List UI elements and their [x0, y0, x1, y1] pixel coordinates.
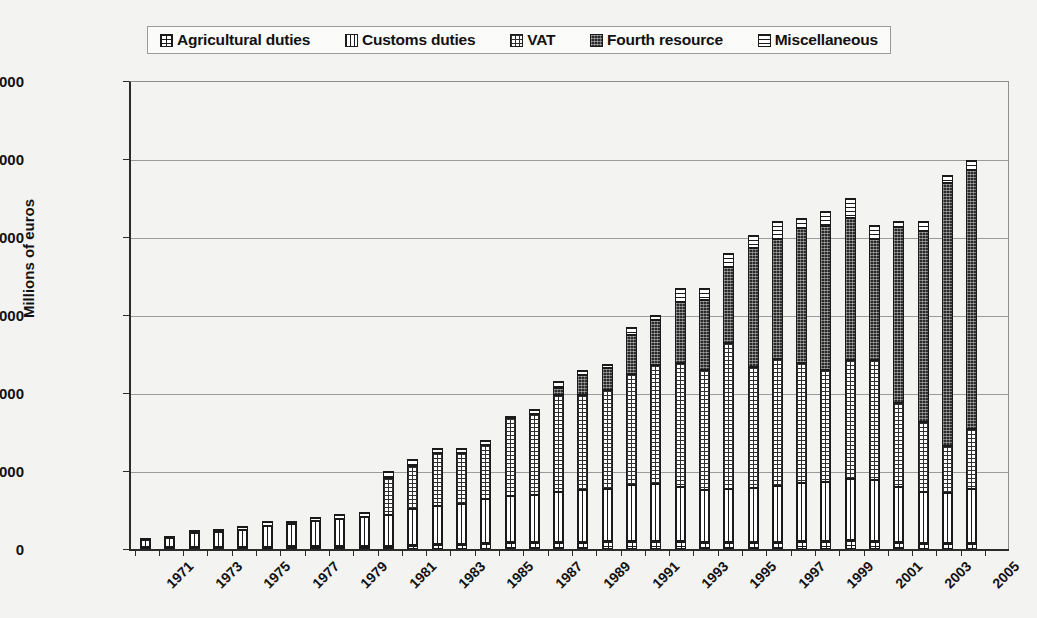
bar-segment-miscellaneous — [772, 221, 783, 238]
legend-item-label: Customs duties — [362, 32, 475, 48]
legend-item-4: Miscellaneous — [758, 32, 878, 48]
y-axis-tick-label: 100,000 — [0, 151, 24, 168]
bar-segment-customs-duties — [262, 526, 273, 547]
bar-segment-customs-duties — [310, 521, 321, 546]
bar-segment-customs-duties — [553, 492, 564, 542]
bar-segment-customs-duties — [650, 484, 661, 541]
x-axis-tick-mark — [645, 549, 646, 556]
bar-segment-miscellaneous — [407, 459, 418, 466]
bar-1993 — [675, 288, 686, 549]
bar-segment-fourth-resource — [699, 300, 710, 370]
bar-segment-customs-duties — [869, 480, 880, 541]
bar-1990 — [602, 364, 613, 549]
bar-segment-vat — [577, 395, 588, 491]
chart-legend: Agricultural dutiesCustoms dutiesVATFour… — [147, 26, 891, 54]
x-axis-tick-mark — [864, 549, 865, 556]
bar-segment-customs-duties — [942, 493, 953, 543]
bar-2003 — [918, 221, 929, 549]
bar-segment-agricultural-duties — [869, 541, 880, 549]
x-axis-tick-mark — [936, 549, 937, 556]
bar-segment-vat — [942, 446, 953, 493]
bar-segment-customs-duties — [918, 492, 929, 543]
x-axis-tick-mark — [912, 549, 913, 556]
x-axis-tick-mark — [523, 549, 524, 556]
bar-1999 — [820, 211, 831, 549]
x-axis-tick-mark — [596, 549, 597, 556]
bar-segment-customs-duties — [845, 479, 856, 541]
horizontal-lines-swatch-icon — [758, 34, 771, 47]
bar-segment-miscellaneous — [942, 175, 953, 184]
x-axis-label-1987: 1987 — [552, 558, 585, 591]
x-axis-label-1981: 1981 — [406, 558, 439, 591]
legend-item-0: Agricultural duties — [160, 32, 310, 48]
y-axis-tick-label: 120,000 — [0, 73, 24, 90]
bar-segment-agricultural-duties — [602, 541, 613, 549]
bar-segment-vat — [529, 414, 540, 495]
bar-segment-vat — [675, 363, 686, 488]
x-axis-tick-mark — [207, 549, 208, 556]
x-axis-tick-mark — [256, 549, 257, 556]
bar-segment-vat — [626, 374, 637, 485]
bar-segment-customs-duties — [820, 482, 831, 541]
bar-segment-customs-duties — [383, 515, 394, 545]
legend-item-label: Miscellaneous — [775, 32, 878, 48]
bar-2000 — [845, 198, 856, 549]
bar-segment-fourth-resource — [918, 231, 929, 422]
bar-segment-fourth-resource — [845, 218, 856, 360]
bar-segment-customs-duties — [237, 530, 248, 546]
bar-segment-agricultural-duties — [772, 542, 783, 549]
grid-swatch-icon — [510, 34, 523, 47]
bar-2005 — [966, 160, 977, 549]
x-axis-tick-mark — [621, 549, 622, 556]
bar-segment-agricultural-duties — [845, 540, 856, 549]
bar-segment-vat — [796, 363, 807, 484]
bar-segment-customs-duties — [796, 483, 807, 541]
bar-segment-miscellaneous — [796, 218, 807, 229]
bar-2002 — [893, 221, 904, 549]
bar-segment-vat — [456, 453, 467, 504]
x-axis-tick-mark — [888, 549, 889, 556]
bar-segment-customs-duties — [699, 490, 710, 541]
bar-segment-customs-duties — [286, 524, 297, 547]
bar-segment-vat — [602, 390, 613, 489]
dark-fill-swatch-icon — [590, 34, 603, 47]
x-axis-tick-mark — [159, 549, 160, 556]
bar-segment-fourth-resource — [796, 228, 807, 363]
bar-segment-agricultural-duties — [748, 542, 759, 549]
x-axis-tick-mark — [402, 549, 403, 556]
x-axis-tick-mark — [135, 549, 136, 556]
bar-segment-customs-duties — [602, 489, 613, 542]
x-axis-label-1973: 1973 — [212, 558, 245, 591]
x-axis-label-1971: 1971 — [163, 558, 196, 591]
x-axis-tick-mark — [669, 549, 670, 556]
bar-segment-miscellaneous — [675, 288, 686, 302]
bar-segment-miscellaneous — [966, 160, 977, 169]
x-axis-tick-mark — [475, 549, 476, 556]
y-axis-tick-label: 20,000 — [0, 463, 24, 480]
legend-item-label: Agricultural duties — [177, 32, 310, 48]
bar-1997 — [772, 221, 783, 549]
bar-segment-fourth-resource — [966, 170, 977, 429]
bar-segment-vat — [845, 360, 856, 479]
bar-segment-customs-duties — [456, 504, 467, 543]
bar-segment-fourth-resource — [650, 320, 661, 365]
bar-segment-fourth-resource — [820, 226, 831, 370]
vertical-lines-swatch-icon — [345, 34, 358, 47]
grid-small-swatch-icon — [160, 34, 173, 47]
bar-segment-vat — [748, 367, 759, 488]
bar-segment-agricultural-duties — [699, 542, 710, 549]
x-axis-tick-mark — [426, 549, 427, 556]
bar-segment-agricultural-duties — [626, 541, 637, 549]
bar-segment-customs-duties — [334, 519, 345, 546]
x-axis-tick-mark — [791, 549, 792, 556]
x-axis-tick-mark — [718, 549, 719, 556]
bar-segment-vat — [966, 429, 977, 489]
bar-segment-vat — [869, 360, 880, 480]
bar-1992 — [650, 315, 661, 549]
bar-segment-customs-duties — [893, 487, 904, 542]
bar-segment-vat — [893, 403, 904, 487]
bar-segment-customs-duties — [748, 488, 759, 542]
y-axis-tick-label: 40,000 — [0, 385, 24, 402]
bar-segment-customs-duties — [432, 506, 443, 544]
x-axis-tick-mark — [305, 549, 306, 556]
